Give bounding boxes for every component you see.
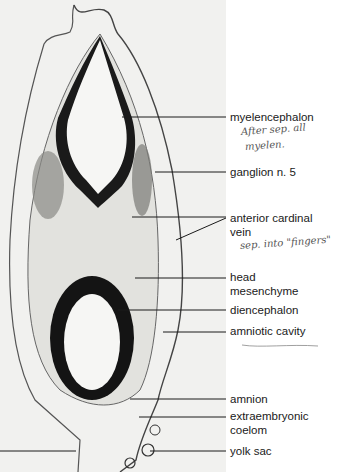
label-extraembryonic: extraembryonic [230, 410, 309, 423]
label-yolk-sac: yolk sac [230, 445, 272, 458]
label-head: head [230, 271, 256, 284]
label-amniotic-cavity: amniotic cavity [230, 325, 305, 338]
label-amnion: amnion [230, 393, 268, 406]
label-diencephalon: diencephalon [230, 304, 298, 317]
label-mesenchyme: mesenchyme [230, 285, 298, 298]
label-anterior-cardinal: anterior cardinal [230, 212, 312, 225]
label-vein: vein [230, 226, 251, 239]
label-ganglion-n5: ganglion n. 5 [230, 166, 296, 179]
label-coelom: coelom [230, 424, 267, 437]
